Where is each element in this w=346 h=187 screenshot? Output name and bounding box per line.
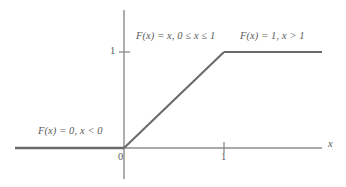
cdf-plot-svg: [0, 0, 346, 187]
y-tick-label-1: 1: [110, 46, 115, 57]
cdf-segment-ramp: [124, 52, 224, 148]
cdf-figure: F(x) = x, 0 ≤ x ≤ 1 F(x) = 1, x > 1 F(x)…: [0, 0, 346, 187]
x-tick-label-0: 0: [118, 152, 123, 163]
annotation-middle-branch: F(x) = x, 0 ≤ x ≤ 1: [136, 31, 215, 42]
x-axis-label: x: [328, 139, 333, 150]
annotation-right-branch: F(x) = 1, x > 1: [240, 31, 305, 42]
x-tick-label-1: 1: [221, 152, 226, 163]
annotation-left-branch: F(x) = 0, x < 0: [38, 126, 103, 137]
